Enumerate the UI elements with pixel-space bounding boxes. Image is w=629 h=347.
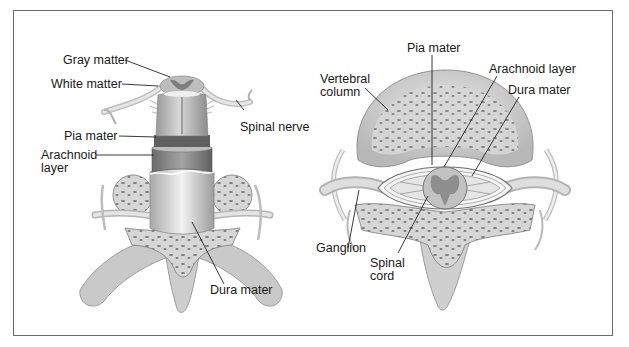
label-pia-mater-right: Pia mater [407,42,461,55]
label-dura-mater-left: Dura mater [210,284,273,297]
posterior-view-illustration [80,76,282,313]
label-dura-mater-right: Dura mater [508,84,571,97]
label-white-matter: White matter [51,78,122,91]
label-spinal-cord-2: cord [370,270,394,283]
label-pia-mater-left: Pia mater [64,130,118,143]
label-vertebral-column-2: column [320,86,360,99]
label-ganglion: Ganglion [316,242,366,255]
label-spinal-nerve: Spinal nerve [240,121,310,134]
label-gray-matter: Gray matter [63,54,129,67]
label-arachnoid-left-2: layer [41,162,68,175]
label-arachnoid-layer-right: Arachnoid layer [489,63,576,76]
cross-section-illustration [325,70,565,310]
